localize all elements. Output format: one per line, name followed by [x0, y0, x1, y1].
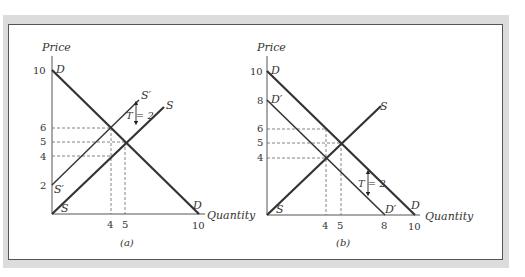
- xtick-4: 4: [107, 219, 113, 230]
- tick-5: 5: [257, 137, 263, 148]
- tax-label: T = 2: [358, 178, 386, 189]
- supply-curve-S: [52, 107, 164, 214]
- label-S-low: S: [61, 202, 69, 215]
- label-S-high: S: [166, 99, 174, 112]
- tick-10: 10: [250, 66, 263, 77]
- tick-10: 10: [33, 65, 46, 76]
- tick-4: 4: [257, 152, 263, 163]
- label-D: D: [270, 64, 280, 77]
- tick-8: 8: [257, 95, 263, 106]
- tick-2: 2: [40, 180, 46, 191]
- label-D-prime: D′: [270, 93, 283, 106]
- panel-b-caption: (b): [336, 237, 350, 248]
- label-S-high: S: [380, 100, 388, 113]
- tick-4: 4: [40, 151, 46, 162]
- label-D-low: D: [192, 199, 202, 212]
- x-axis-label: Quantity: [425, 210, 474, 223]
- label-D: D: [55, 63, 65, 76]
- xtick-4: 4: [322, 220, 328, 231]
- panel-b: Price 10 D 8 D′ 6 5 4 S S T = 2 D′ D Qua…: [250, 41, 474, 248]
- xtick-8: 8: [381, 220, 387, 231]
- xtick-5: 5: [122, 219, 128, 230]
- xtick-10: 10: [408, 221, 421, 232]
- y-axis-label: Price: [41, 41, 71, 54]
- label-D-low: D: [410, 199, 420, 212]
- tick-5: 5: [40, 136, 46, 147]
- panel-a-caption: (a): [120, 237, 134, 248]
- label-S-prime-low: S′: [54, 183, 65, 196]
- panel-a: Price 10 D 6 5 4 2 S′ S S′ S T = 2 D Qua…: [33, 41, 256, 248]
- tax-label: T = 2: [126, 110, 154, 121]
- supply-curve-S: [267, 106, 381, 215]
- xtick-10: 10: [192, 220, 205, 231]
- y-axis-label: Price: [256, 41, 286, 54]
- chart-svg: Price 10 D 6 5 4 2 S′ S S′ S T = 2 D Qua…: [0, 0, 525, 277]
- tick-6: 6: [257, 123, 263, 134]
- label-D-prime-low: D′: [384, 203, 397, 216]
- label-S-prime-high: S′: [141, 89, 152, 102]
- tick-6: 6: [40, 122, 46, 133]
- label-S-low: S: [276, 203, 284, 216]
- xtick-5: 5: [337, 220, 343, 231]
- x-axis-label: Quantity: [207, 209, 256, 222]
